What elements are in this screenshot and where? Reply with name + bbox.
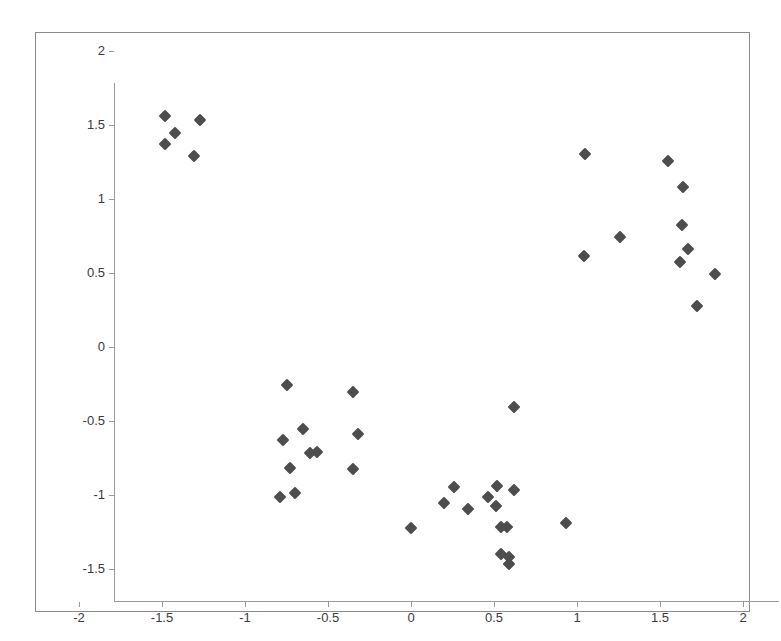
y-axis-tick (109, 51, 114, 52)
data-point-marker (491, 479, 504, 492)
x-axis-tick (743, 602, 744, 607)
y-axis-tick-label: -1 (65, 488, 105, 501)
x-axis-tick-label: -2 (49, 611, 109, 625)
y-axis-tick-label-wrap: -1 (61, 488, 105, 489)
scatter-plot-page: 21.510.50-0.5-1-1.5 -2-1.5-1-0.500.511.5… (0, 0, 781, 641)
x-axis-tick-label: 1.5 (630, 611, 690, 625)
x-axis-tick (660, 602, 661, 607)
y-axis-tick-label-wrap: -0.5 (61, 414, 105, 415)
data-point-marker (347, 463, 360, 476)
data-point-marker (277, 433, 290, 446)
data-point-marker (559, 516, 572, 529)
x-axis-tick-label: 0 (381, 611, 441, 625)
x-axis-tick (577, 602, 578, 607)
data-point-marker (194, 114, 207, 127)
x-axis-tick (328, 602, 329, 607)
y-axis-tick-label: 2 (65, 44, 105, 57)
x-axis-tick-label: -1 (215, 611, 275, 625)
data-point-marker (347, 386, 360, 399)
y-axis-tick-label: -0.5 (65, 414, 105, 427)
data-point-marker (274, 491, 287, 504)
chart-frame: 21.510.50-0.5-1-1.5 -2-1.5-1-0.500.511.5… (35, 32, 750, 612)
y-axis-tick-label: 0 (65, 340, 105, 353)
data-point-marker (614, 231, 627, 244)
data-point-marker (682, 242, 695, 255)
y-axis-tick-label-wrap: 0.5 (61, 266, 105, 267)
x-axis-tick-label-wrap: 0 (381, 611, 441, 627)
x-axis-tick-label: 2 (713, 611, 773, 625)
data-point-marker (579, 148, 592, 161)
data-point-marker (677, 180, 690, 193)
data-point-marker (297, 423, 310, 436)
data-point-marker (690, 300, 703, 313)
data-point-marker (289, 487, 302, 500)
data-point-marker (508, 484, 521, 497)
x-axis-tick-label-wrap: 1.5 (630, 611, 690, 627)
y-axis-tick-label-wrap: 1 (61, 192, 105, 193)
x-axis-tick-label-wrap: -0.5 (298, 611, 358, 627)
data-point-marker (169, 127, 182, 140)
x-axis-tick-label: -1.5 (132, 611, 192, 625)
x-axis-tick-label: 0.5 (464, 611, 524, 625)
y-axis-tick-label-wrap: 1.5 (61, 118, 105, 119)
x-axis-tick-label-wrap: 0.5 (464, 611, 524, 627)
data-point-marker (352, 427, 365, 440)
y-axis-tick-label-wrap: 0 (61, 340, 105, 341)
plot-area (114, 83, 778, 601)
x-axis-tick-label-wrap: 2 (713, 611, 773, 627)
x-axis-tick-label-wrap: -1.5 (132, 611, 192, 627)
y-axis-tick-label: 0.5 (65, 266, 105, 279)
data-point-marker (284, 461, 297, 474)
x-axis-tick-label-wrap: 1 (547, 611, 607, 627)
data-point-marker (159, 137, 172, 150)
x-axis-tick-label: 1 (547, 611, 607, 625)
x-axis-tick-label-wrap: -2 (49, 611, 109, 627)
x-axis-tick (79, 602, 80, 607)
y-axis-tick-label: 1.5 (65, 118, 105, 131)
data-point-marker (674, 256, 687, 269)
y-axis-tick-label-wrap: 2 (61, 44, 105, 45)
x-axis-tick-label: -0.5 (298, 611, 358, 625)
data-point-marker (461, 503, 474, 516)
data-point-marker (675, 219, 688, 232)
data-point-marker (662, 155, 675, 168)
data-series-points (114, 83, 778, 601)
x-axis-tick (245, 602, 246, 607)
data-point-marker (577, 250, 590, 263)
x-axis-tick (162, 602, 163, 607)
x-axis-line (114, 601, 779, 602)
y-axis-tick-label-wrap: -1.5 (61, 562, 105, 563)
data-point-marker (508, 401, 521, 414)
x-axis-tick (494, 602, 495, 607)
data-point-marker (448, 481, 461, 494)
data-point-marker (280, 379, 293, 392)
data-point-marker (159, 109, 172, 122)
x-axis-tick-label-wrap: -1 (215, 611, 275, 627)
x-axis-tick (411, 602, 412, 607)
data-point-marker (489, 500, 502, 513)
data-point-marker (405, 522, 418, 535)
data-point-marker (187, 149, 200, 162)
y-axis-tick-label: -1.5 (65, 562, 105, 575)
data-point-marker (438, 497, 451, 510)
data-point-marker (709, 268, 722, 281)
y-axis-tick-label: 1 (65, 192, 105, 205)
